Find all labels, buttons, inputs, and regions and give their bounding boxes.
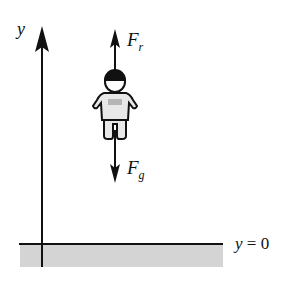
force-g-label: Fg — [127, 158, 145, 177]
force-r-subscript: r — [139, 40, 144, 54]
ground-level-label: y = 0 — [235, 235, 269, 252]
force-g-symbol: F — [127, 157, 139, 178]
ground-level-value: = 0 — [243, 234, 270, 253]
ground-level-var: y — [235, 234, 243, 253]
force-g-subscript: g — [139, 168, 145, 182]
y-axis-label: y — [17, 20, 25, 38]
force-r-label: Fr — [127, 30, 143, 49]
ground-surface — [20, 245, 223, 267]
force-r-symbol: F — [127, 29, 139, 50]
person-icon — [93, 70, 137, 139]
